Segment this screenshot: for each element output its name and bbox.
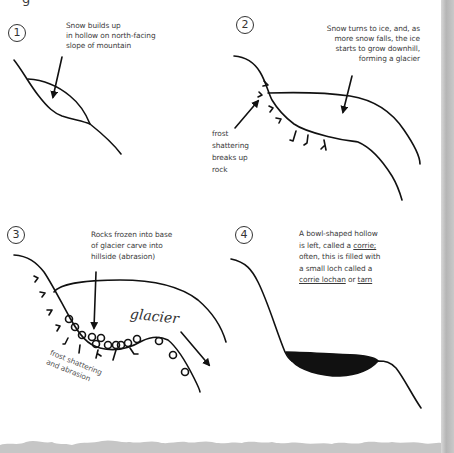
panel-2-frost-label: frost shattering breaks up rock: [212, 128, 249, 176]
torn-paper-edge: [0, 436, 441, 453]
term-corrie-lochan: corrie lochan: [299, 275, 346, 284]
panel-2-drawing: [234, 56, 420, 200]
term-tarn: tarn: [358, 275, 373, 284]
panel-3-drawing: [14, 255, 226, 392]
step-number-3: 3: [7, 226, 25, 244]
step-number-4: 4: [235, 226, 253, 244]
diagram-page: g: [0, 0, 441, 453]
panel-2-caption: Snow turns to ice, and, as more snow fal…: [310, 24, 420, 64]
panel-3-caption: Rocks frozen into base of glacier carve …: [91, 229, 172, 262]
page-right-edge-shadow: [441, 0, 454, 453]
step-number-2: 2: [236, 16, 254, 34]
panel-1-drawing: [14, 57, 121, 154]
panel-4-caption: A bowl-shaped hollow is left, called a c…: [299, 228, 380, 286]
term-corrie: corrie;: [353, 241, 376, 250]
panel-1-caption: Snow builds up in hollow on north-facing…: [66, 21, 156, 51]
corrie-formation-drawing: [0, 0, 441, 453]
step-number-1: 1: [8, 24, 26, 42]
